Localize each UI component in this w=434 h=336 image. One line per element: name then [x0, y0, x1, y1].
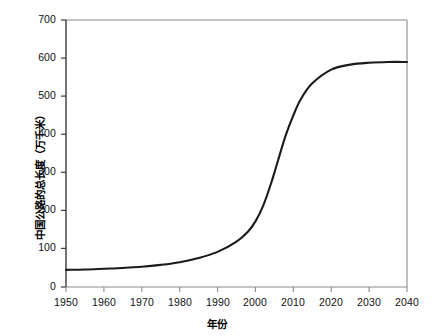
x-tick-label-2030: 2030 [351, 296, 387, 308]
x-tick-label-2010: 2010 [275, 296, 311, 308]
x-tick-label-1960: 1960 [86, 296, 122, 308]
chart-container: 700 600 500 400 300 200 100 0 1950 1960 … [0, 0, 434, 336]
y-tick-label-100: 100 [28, 241, 56, 253]
x-tick-label-1970: 1970 [124, 296, 160, 308]
x-axis-title: 年份 [0, 316, 434, 331]
x-tick-label-1980: 1980 [162, 296, 198, 308]
x-tick-label-2040: 2040 [389, 296, 425, 308]
y-axis-title: 中国公路的总长度（万千米） [32, 110, 47, 240]
y-axis-ticks [61, 20, 66, 287]
x-tick-label-2000: 2000 [237, 296, 273, 308]
y-tick-label-600: 600 [28, 51, 56, 63]
y-tick-label-700: 700 [28, 13, 56, 25]
plot-frame [66, 20, 407, 287]
x-tick-label-1990: 1990 [200, 296, 236, 308]
line-chart-canvas [0, 0, 434, 336]
y-tick-label-500: 500 [28, 89, 56, 101]
data-series-line [66, 62, 407, 270]
x-axis-ticks [66, 287, 407, 292]
x-tick-label-2020: 2020 [313, 296, 349, 308]
y-tick-label-0: 0 [28, 280, 56, 292]
x-tick-label-1950: 1950 [48, 296, 84, 308]
